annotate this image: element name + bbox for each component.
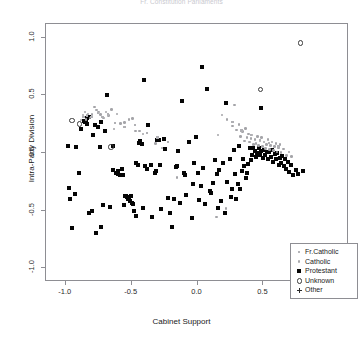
data-point xyxy=(219,199,223,203)
legend-item-other: Other xyxy=(293,285,354,295)
data-point xyxy=(168,211,172,215)
data-point xyxy=(119,122,122,125)
data-point xyxy=(163,147,167,151)
data-point xyxy=(134,124,136,126)
data-point xyxy=(187,140,191,144)
data-point xyxy=(154,142,157,145)
data-point xyxy=(282,148,285,151)
data-point xyxy=(250,137,253,140)
data-point xyxy=(254,138,257,141)
data-point xyxy=(68,197,72,201)
data-point xyxy=(77,171,81,175)
data-point xyxy=(237,144,241,148)
data-point xyxy=(288,151,291,154)
data-point xyxy=(259,106,263,110)
data-point xyxy=(259,139,261,141)
data-point xyxy=(233,104,236,107)
legend-item-label: Fr.Catholic xyxy=(305,247,338,257)
data-point xyxy=(145,167,149,171)
data-point xyxy=(122,203,126,207)
data-point xyxy=(93,106,96,109)
data-point xyxy=(103,129,107,133)
y-tick-mark xyxy=(41,210,45,211)
legend-item-label: Unknown xyxy=(305,276,334,286)
data-point xyxy=(138,130,141,133)
data-point xyxy=(258,87,263,92)
x-tick-label: -1.0 xyxy=(45,287,85,296)
data-point xyxy=(142,133,145,136)
data-point xyxy=(123,126,125,128)
data-point xyxy=(107,113,109,115)
data-point xyxy=(159,207,163,211)
legend-item-label: Catholic xyxy=(305,257,330,267)
data-point xyxy=(184,193,188,197)
data-point xyxy=(84,111,87,114)
legend: Fr.CatholicCatholicProtestantUnknownOthe… xyxy=(290,243,358,299)
data-point xyxy=(101,203,105,207)
data-point xyxy=(213,158,217,162)
data-point xyxy=(146,132,148,134)
data-point xyxy=(131,117,134,120)
data-point xyxy=(176,176,179,179)
data-point xyxy=(128,118,131,121)
data-point xyxy=(264,147,267,150)
legend-item-fr-catholic: Fr.Catholic xyxy=(293,247,354,257)
data-point xyxy=(230,187,234,191)
data-point xyxy=(94,231,98,235)
data-point xyxy=(203,202,207,206)
y-tick-mark xyxy=(41,267,45,268)
data-point xyxy=(256,135,259,138)
data-point xyxy=(215,172,219,176)
data-point xyxy=(121,173,125,177)
data-point xyxy=(190,216,194,220)
legend-marker-icon xyxy=(293,247,305,257)
data-point xyxy=(90,116,92,118)
data-point xyxy=(70,226,74,230)
data-point xyxy=(201,166,205,170)
data-point xyxy=(224,101,228,105)
data-point xyxy=(114,122,116,124)
data-point xyxy=(108,205,112,209)
x-tick-mark xyxy=(65,281,66,285)
data-point xyxy=(296,172,300,176)
data-point xyxy=(113,128,116,131)
data-point xyxy=(176,149,180,153)
scatter-plot-figure: Fr. Constitution Parliaments -1.0-0.50.0… xyxy=(0,0,363,340)
data-point xyxy=(132,209,136,213)
data-point xyxy=(246,136,249,139)
data-point xyxy=(146,123,150,127)
data-point xyxy=(225,180,229,184)
x-tick-mark xyxy=(262,281,263,285)
legend-item-label: Protestant xyxy=(305,266,337,276)
data-point xyxy=(244,127,247,130)
data-point xyxy=(110,108,113,111)
y-axis-title: Intra-Party Division xyxy=(27,69,36,229)
data-point xyxy=(69,118,74,123)
data-point xyxy=(223,211,227,215)
legend-item-protestant: Protestant xyxy=(293,266,354,276)
data-point xyxy=(238,123,241,126)
data-point xyxy=(298,40,303,45)
data-point xyxy=(235,129,238,132)
data-point xyxy=(129,194,133,198)
data-point xyxy=(240,129,242,131)
data-point xyxy=(162,137,166,141)
data-point xyxy=(97,112,99,114)
data-point xyxy=(285,154,288,157)
data-point xyxy=(289,163,293,167)
data-point xyxy=(217,134,220,137)
data-point xyxy=(131,202,135,206)
data-point xyxy=(209,191,213,195)
y-tick-mark xyxy=(41,37,45,38)
data-point xyxy=(234,197,238,201)
data-point xyxy=(290,155,293,158)
data-point xyxy=(221,114,224,117)
data-point xyxy=(268,148,271,151)
data-point xyxy=(105,93,109,97)
data-point xyxy=(82,116,84,118)
data-point xyxy=(268,142,270,144)
y-tick-mark xyxy=(41,94,45,95)
data-point xyxy=(221,161,225,165)
data-point xyxy=(77,121,82,126)
data-point xyxy=(231,121,233,123)
